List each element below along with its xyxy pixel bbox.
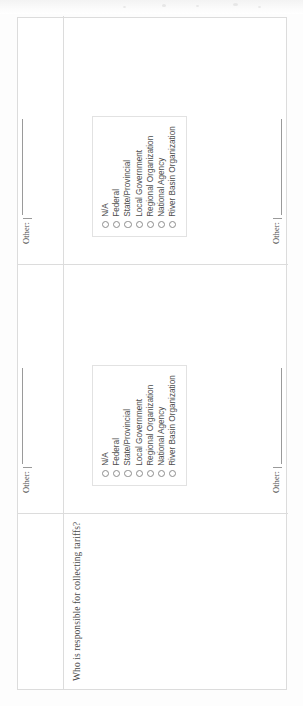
option-row[interactable]: Regional Organization xyxy=(145,126,156,228)
radio-icon[interactable] xyxy=(147,221,154,228)
option-row[interactable]: River Basin Organization xyxy=(167,126,178,228)
option-row[interactable]: N/A xyxy=(100,126,111,228)
option-label: Local Government xyxy=(134,399,145,466)
option-row[interactable]: State/Provincial xyxy=(122,126,133,228)
option-label: State/Provincial xyxy=(122,160,133,217)
other-field-1[interactable]: Other: xyxy=(272,368,282,493)
radio-icon[interactable] xyxy=(136,470,143,477)
option-row[interactable]: Regional Organization xyxy=(145,375,156,477)
scan-speck xyxy=(123,6,126,8)
other-write-in-rule[interactable] xyxy=(280,119,282,215)
radio-icon[interactable] xyxy=(102,470,109,477)
option-label: National Agency xyxy=(156,407,167,466)
other-label: Other: xyxy=(22,471,32,493)
form-header-rail xyxy=(18,16,64,689)
option-row[interactable]: Federal xyxy=(111,375,122,477)
other-write-in-rule[interactable] xyxy=(22,368,24,464)
option-label: N/A xyxy=(100,203,111,217)
other-label: Other: xyxy=(272,471,282,493)
option-row[interactable]: National Agency xyxy=(156,375,167,477)
rule-tick xyxy=(23,218,32,219)
radio-icon[interactable] xyxy=(124,470,131,477)
option-label: State/Provincial xyxy=(122,409,133,466)
radio-icon[interactable] xyxy=(169,470,176,477)
option-label: Local Government xyxy=(134,150,145,217)
radio-icon[interactable] xyxy=(113,470,120,477)
radio-icon[interactable] xyxy=(158,470,165,477)
option-group-2: N/A Federal State/Provincial Local Gover… xyxy=(92,116,187,237)
option-row[interactable]: River Basin Organization xyxy=(167,375,178,477)
other-field-2[interactable]: Other: xyxy=(22,368,32,493)
option-row[interactable]: N/A xyxy=(100,375,111,477)
option-row[interactable]: National Agency xyxy=(156,126,167,228)
option-label: Federal xyxy=(111,189,122,217)
other-field-4[interactable]: Other: xyxy=(22,119,32,244)
scan-speck xyxy=(258,6,261,8)
scan-speck xyxy=(233,3,238,6)
other-field-3[interactable]: Other: xyxy=(272,119,282,244)
rule-tick xyxy=(273,467,282,468)
rule-tick xyxy=(23,467,32,468)
scan-speck xyxy=(162,4,166,7)
option-row[interactable]: Federal xyxy=(111,126,122,228)
option-label: N/A xyxy=(100,452,111,466)
other-label: Other: xyxy=(22,222,32,244)
option-label: River Basin Organization xyxy=(167,375,178,466)
other-label: Other: xyxy=(272,222,282,244)
survey-form: Who is responsible for collecting tariff… xyxy=(17,17,287,690)
radio-icon[interactable] xyxy=(113,221,120,228)
question-cell: Who is responsible for collecting tariff… xyxy=(64,514,288,689)
question-text: Who is responsible for collecting tariff… xyxy=(72,522,83,681)
answer-column-1: N/A Federal State/Provincial Local Gover… xyxy=(64,265,288,514)
option-row[interactable]: Local Government xyxy=(134,126,145,228)
other-write-in-rule[interactable] xyxy=(22,119,24,215)
scan-speck xyxy=(196,5,199,7)
option-group-1: N/A Federal State/Provincial Local Gover… xyxy=(92,365,187,486)
form-table: Who is responsible for collecting tariff… xyxy=(17,17,287,690)
answer-column-2: N/A Federal State/Provincial Local Gover… xyxy=(64,16,288,265)
radio-icon[interactable] xyxy=(169,221,176,228)
option-row[interactable]: Local Government xyxy=(134,375,145,477)
option-label: Regional Organization xyxy=(145,136,156,217)
option-label: National Agency xyxy=(156,158,167,217)
radio-icon[interactable] xyxy=(158,221,165,228)
radio-icon[interactable] xyxy=(124,221,131,228)
radio-icon[interactable] xyxy=(102,221,109,228)
other-write-in-rule[interactable] xyxy=(280,368,282,464)
radio-icon[interactable] xyxy=(136,221,143,228)
option-label: River Basin Organization xyxy=(167,126,178,217)
option-row[interactable]: State/Provincial xyxy=(122,375,133,477)
scanned-page: Who is responsible for collecting tariff… xyxy=(0,0,303,706)
option-label: Regional Organization xyxy=(145,385,156,466)
radio-icon[interactable] xyxy=(147,470,154,477)
rule-tick xyxy=(273,218,282,219)
option-label: Federal xyxy=(111,438,122,466)
